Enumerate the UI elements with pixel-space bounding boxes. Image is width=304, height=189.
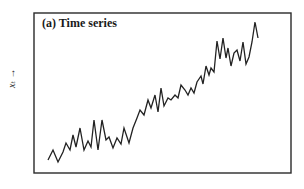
y-axis-label: xₜ → — [6, 69, 17, 88]
chart-title: (a) Time series — [42, 16, 117, 31]
time-series-line — [48, 22, 258, 162]
